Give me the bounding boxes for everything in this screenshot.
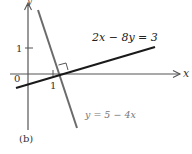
line-y-equals-5-minus-4x [38,10,77,128]
x-axis-label: x [183,67,190,80]
y-axis [25,3,34,130]
coordinate-diagram: y x 1 0 1 2x − 8y = 3 y = 5 − 4x (b) [0,0,192,154]
right-angle-icon [59,63,69,70]
equation-label-2x-8y: 2x − 8y = 3 [91,31,158,44]
line-2x-minus-8y-equals-3 [16,47,155,88]
y-axis-label: y [26,0,33,6]
x-tick-label: 1 [50,80,56,91]
figure-caption: (b) [19,133,33,144]
x-axis [10,70,180,78]
y-tick-label: 1 [16,43,22,54]
origin-label: 0 [14,73,20,84]
equation-label-y-5-4x: y = 5 − 4x [84,109,136,120]
